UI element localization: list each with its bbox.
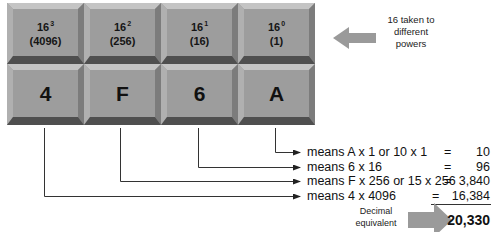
value-6: 96: [476, 160, 490, 174]
equals-sign: =: [444, 145, 451, 159]
connector-F: [121, 128, 301, 182]
explanation-row-A: means A x 1 or 10 x 1: [307, 145, 427, 159]
arrow-right-icon: [408, 203, 452, 232]
value-4: 16,384: [452, 189, 490, 203]
decimal-total: 20,330: [447, 212, 490, 228]
explanation-row-6: means 6 x 16: [307, 160, 382, 174]
value-F: 3,840: [459, 174, 490, 188]
explanation-row-4: means 4 x 4096: [307, 189, 396, 203]
powers-note: 16 taken to different powers: [382, 14, 440, 50]
equals-sign: =: [444, 160, 451, 174]
connector-6: [199, 128, 301, 168]
value-A: 10: [476, 145, 490, 159]
connector-A: [276, 128, 301, 153]
arrow-left-icon: [333, 27, 376, 49]
decimal-equivalent-label: Decimal equivalent: [346, 205, 406, 229]
equals-sign: =: [444, 174, 451, 188]
explanation-row-F: means F x 256 or 15 x 256: [307, 174, 456, 188]
connector-4: [45, 128, 301, 197]
equals-sign: =: [432, 189, 439, 203]
